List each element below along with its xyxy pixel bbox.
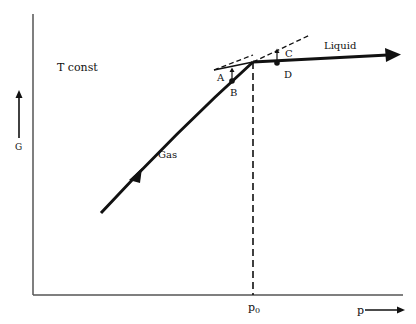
y-axis-arrow-icon: [16, 90, 23, 138]
liquid-direction-arrow-icon: [385, 48, 401, 62]
ab-difference-arrow-icon: [229, 68, 235, 84]
liquid-line: [253, 55, 388, 62]
gibbs-energy-diagram: G p p0 T const A B C D Gas Liquid: [0, 0, 416, 324]
x-tick-label-p0: p0: [248, 301, 260, 315]
gas-label: Gas: [158, 149, 177, 160]
gas-metastable-dashed: [253, 35, 310, 62]
liquid-label: Liquid: [324, 40, 357, 51]
point-label-a: A: [216, 72, 225, 83]
point-label-c: C: [285, 48, 293, 59]
point-label-d: D: [284, 69, 292, 80]
gas-curve: [101, 62, 253, 213]
y-axis-label: G: [15, 142, 22, 152]
x-axis-arrow-icon: [365, 307, 405, 314]
x-axis-label: p: [357, 304, 364, 317]
point-label-b: B: [230, 87, 237, 98]
condition-label: T const: [57, 61, 98, 74]
